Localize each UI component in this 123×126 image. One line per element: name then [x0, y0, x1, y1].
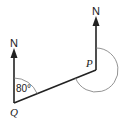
north-label-p: N — [92, 5, 100, 17]
north-arrow-icon-p — [93, 16, 100, 26]
north-arrow-icon-q — [11, 48, 18, 58]
angle-arc-p — [76, 48, 118, 92]
angle-label-q: 80° — [16, 83, 31, 94]
point-label-p: P — [85, 57, 93, 69]
north-label-q: N — [10, 37, 18, 49]
point-label-q: Q — [10, 106, 18, 118]
bearing-diagram: N N 80° P Q — [0, 0, 123, 126]
